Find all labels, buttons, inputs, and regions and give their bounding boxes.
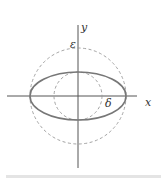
caption-fragment [6,175,161,178]
epsilon-label: ε [70,39,76,50]
delta-label: δ [105,98,112,109]
y-axis-label: y [81,22,87,33]
x-axis-label: x [145,97,151,108]
